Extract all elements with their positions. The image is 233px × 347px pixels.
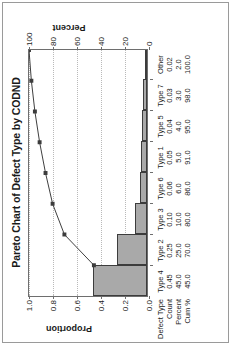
table-cell: 0.25	[165, 235, 174, 266]
secondary-y-tickmark	[29, 47, 30, 50]
cumulative-polyline	[29, 50, 94, 265]
x-tickmark	[150, 203, 153, 204]
cumulative-marker	[44, 171, 48, 175]
secondary-y-tick-label: 100	[25, 20, 34, 50]
rotated-chart-wrapper: Pareto Chart of Defect Type by CODND Pro…	[2, 2, 229, 343]
table-cell: 95.0	[183, 111, 192, 142]
secondary-y-tickmark	[77, 47, 78, 50]
x-tickmark	[150, 234, 153, 235]
table-cell: 100.0	[183, 49, 192, 80]
plot-inner	[29, 50, 147, 296]
table-cell: 0.45	[165, 266, 174, 297]
secondary-y-tick-label: 20	[121, 20, 130, 50]
cumulative-marker	[38, 140, 42, 144]
table-cell: 0.06	[165, 173, 174, 204]
x-tickmark	[150, 79, 153, 80]
table-cell: Type 2	[156, 235, 165, 266]
x-tickmark	[150, 265, 153, 266]
table-cell: 45.0	[183, 266, 192, 297]
y-tickmark	[53, 296, 54, 299]
cumulative-marker	[33, 110, 37, 114]
y-tickmark	[77, 296, 78, 299]
page-frame: Pareto Chart of Defect Type by CODND Pro…	[2, 2, 229, 343]
cumulative-marker	[29, 79, 33, 83]
table-cell: Type 3	[156, 204, 165, 235]
y-tick-label: 0.6	[73, 296, 82, 326]
secondary-y-tick-label: 60	[73, 20, 82, 50]
cumulative-marker	[92, 263, 96, 267]
table-cell: 0.05	[165, 142, 174, 173]
x-tickmark	[150, 172, 153, 173]
table-row-label: Cum %	[183, 299, 192, 343]
table-cell: 80.0	[183, 204, 192, 235]
table-cell: Type 7	[156, 80, 165, 111]
table-cell: 2.0	[174, 49, 183, 80]
table-row-label: Count	[165, 299, 174, 343]
chart-title: Pareto Chart of Defect Type by CODND	[10, 2, 22, 343]
table-cell: 0.02	[165, 49, 174, 80]
x-tickmark	[150, 110, 153, 111]
secondary-y-tick-label: 40	[97, 20, 106, 50]
data-table: Defect TypeCountPercentCum % Type 4Type …	[150, 2, 212, 343]
y-tickmark	[101, 296, 102, 299]
table-cell: Type 4	[156, 266, 165, 297]
table-cell: 98.0	[183, 80, 192, 111]
table-cell: 91.0	[183, 142, 192, 173]
table-cell: 0.04	[165, 111, 174, 142]
pareto-chart: Pareto Chart of Defect Type by CODND Pro…	[2, 2, 229, 343]
cumulative-marker	[29, 50, 31, 52]
table-cell: 25.0	[174, 235, 183, 266]
y-tick-label: 0.2	[121, 296, 130, 326]
table-cell: 6.0	[174, 173, 183, 204]
cumulative-line	[29, 50, 147, 296]
table-cell: 10.0	[174, 204, 183, 235]
plot-area: 0.00.20.40.60.81.0 020406080100	[28, 49, 148, 297]
y-tickmark	[29, 296, 30, 299]
table-cell: 5.0	[174, 142, 183, 173]
y-tick-label: 0.4	[97, 296, 106, 326]
secondary-y-tick-label: 80	[49, 20, 58, 50]
table-cell: Type 6	[156, 173, 165, 204]
table-cell: 4.0	[174, 111, 183, 142]
y-tickmark	[125, 296, 126, 299]
table-cell: 3.0	[174, 80, 183, 111]
table-cell: 0.10	[165, 204, 174, 235]
x-tickmark	[150, 141, 153, 142]
table-cell: Type 1	[156, 142, 165, 173]
table-row-label: Percent	[174, 299, 183, 343]
secondary-y-tickmark	[125, 47, 126, 50]
table-row-label: Defect Type	[156, 299, 165, 343]
cumulative-marker	[51, 202, 55, 206]
table-cell: 70.0	[183, 235, 192, 266]
secondary-y-tickmark	[53, 47, 54, 50]
y-tick-label: 0.8	[49, 296, 58, 326]
cumulative-marker	[62, 233, 66, 237]
table-cell: 0.03	[165, 80, 174, 111]
table-cell: 86.0	[183, 173, 192, 204]
table-cell: Type 5	[156, 111, 165, 142]
table-cell: 45.0	[174, 266, 183, 297]
y-tick-label: 1.0	[25, 296, 34, 326]
secondary-y-tickmark	[101, 47, 102, 50]
table-cell: Other	[156, 49, 165, 80]
